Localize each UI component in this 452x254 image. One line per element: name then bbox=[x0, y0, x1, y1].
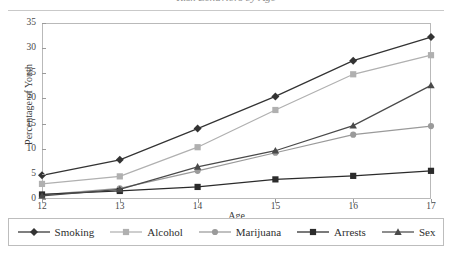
diamond-marker bbox=[38, 171, 46, 179]
legend-label: Smoking bbox=[55, 226, 95, 238]
square-marker bbox=[272, 176, 278, 182]
circle-marker bbox=[198, 226, 232, 238]
square-marker bbox=[123, 229, 129, 235]
y-tick-mark bbox=[42, 48, 46, 49]
legend-label: Marijuana bbox=[236, 226, 281, 238]
x-tick-mark bbox=[275, 199, 276, 203]
square-marker bbox=[428, 168, 434, 174]
series-line bbox=[42, 126, 431, 195]
series-line bbox=[42, 85, 431, 196]
y-tick-mark bbox=[42, 98, 46, 99]
square-marker bbox=[310, 229, 316, 235]
x-tick-mark bbox=[431, 199, 432, 203]
square-marker bbox=[195, 184, 201, 190]
circle-marker bbox=[428, 123, 434, 129]
legend-item-alcohol[interactable]: Alcohol bbox=[109, 226, 182, 238]
square-marker bbox=[350, 71, 356, 77]
triangle-marker bbox=[350, 122, 357, 129]
x-tick-mark bbox=[198, 199, 199, 203]
diamond-marker bbox=[116, 156, 124, 164]
series-line bbox=[42, 37, 431, 175]
y-tick-mark bbox=[42, 124, 46, 125]
square-marker bbox=[272, 107, 278, 113]
square-marker bbox=[195, 144, 201, 150]
square-marker bbox=[296, 226, 330, 238]
plot-series-layer bbox=[42, 23, 431, 199]
diamond-marker bbox=[427, 33, 435, 41]
legend-label: Sex bbox=[419, 226, 436, 238]
y-axis-title: Percentage of Youth bbox=[23, 30, 34, 180]
diamond-marker bbox=[194, 125, 202, 133]
diamond-marker bbox=[271, 92, 279, 100]
y-tick-mark bbox=[42, 149, 46, 150]
square-marker bbox=[109, 226, 143, 238]
series-arrests bbox=[39, 168, 434, 198]
diamond-marker bbox=[17, 226, 51, 238]
y-tick-label: 35 bbox=[4, 18, 36, 27]
legend-item-marijuana[interactable]: Marijuana bbox=[198, 226, 281, 238]
series-marijuana bbox=[39, 123, 434, 198]
y-tick-mark bbox=[42, 73, 46, 74]
triangle-marker bbox=[427, 82, 434, 89]
series-sex bbox=[38, 82, 434, 199]
legend-item-arrests[interactable]: Arrests bbox=[296, 226, 366, 238]
x-tick-mark bbox=[42, 199, 43, 203]
x-tick-mark bbox=[120, 199, 121, 203]
square-marker bbox=[428, 52, 434, 58]
y-tick-mark bbox=[42, 174, 46, 175]
chart-legend: SmokingAlcoholMarijuanaArrestsSex bbox=[8, 218, 444, 246]
legend-label: Arrests bbox=[334, 226, 366, 238]
triangle-marker bbox=[381, 226, 415, 238]
circle-marker bbox=[350, 132, 356, 138]
legend-item-smoking[interactable]: Smoking bbox=[17, 226, 95, 238]
square-marker bbox=[39, 181, 45, 187]
series-alcohol bbox=[39, 52, 434, 187]
square-marker bbox=[350, 173, 356, 179]
chart-title: Risk Behaviors by Age bbox=[0, 0, 452, 3]
series-smoking bbox=[38, 33, 435, 179]
circle-marker bbox=[212, 229, 218, 235]
legend-label: Alcohol bbox=[147, 226, 182, 238]
legend-item-sex[interactable]: Sex bbox=[381, 226, 436, 238]
square-marker bbox=[117, 173, 123, 179]
x-tick-mark bbox=[353, 199, 354, 203]
chart-region: 05101520253035121314151617 Percentage of… bbox=[0, 11, 452, 211]
y-tick-mark bbox=[42, 23, 46, 24]
series-line bbox=[42, 55, 431, 184]
diamond-marker bbox=[30, 228, 38, 236]
diamond-marker bbox=[349, 57, 357, 65]
